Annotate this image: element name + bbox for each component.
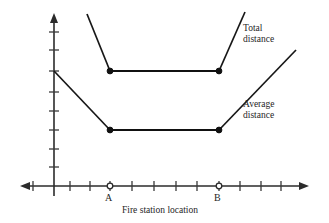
series-label-average-distance: Averagedistance [243, 99, 274, 121]
x-tick-label-a: A [105, 192, 112, 203]
marker-location-b [216, 183, 222, 189]
x-axis-left-arrow [20, 182, 30, 190]
chart-figure: Totaldistance Averagedistance A B Fire s… [0, 0, 329, 223]
series-label-average-line2: distance [243, 110, 274, 120]
data-point-average-right [216, 127, 222, 133]
x-axis-right-arrow [299, 182, 309, 190]
series-total-distance [87, 12, 245, 74]
x-tick-label-b: B [214, 192, 221, 203]
data-point-total-right [216, 68, 222, 74]
series-label-total-line2: distance [243, 34, 274, 44]
y-axis-arrow [50, 13, 58, 23]
data-point-average-left [107, 127, 113, 133]
marker-location-a [107, 183, 113, 189]
data-point-total-left [107, 68, 113, 74]
series-label-average-line1: Average [243, 99, 274, 109]
series-label-total-line1: Total [243, 23, 262, 33]
series-label-total-distance: Totaldistance [243, 23, 274, 45]
y-axis [49, 13, 59, 196]
chart-plot-area [0, 0, 329, 223]
x-axis-title: Fire station location [122, 205, 198, 216]
x-axis [20, 181, 309, 191]
